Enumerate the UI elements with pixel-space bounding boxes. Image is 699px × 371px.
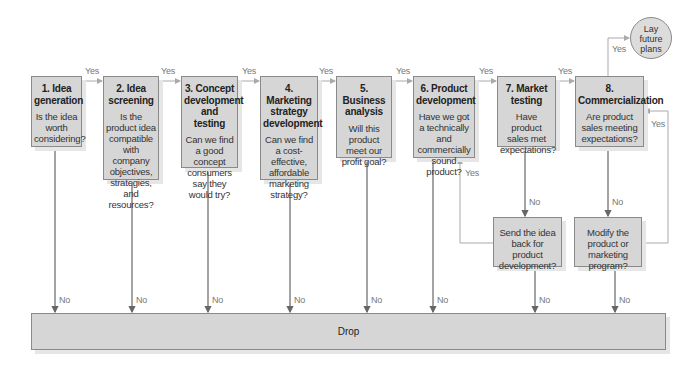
send-back-decision: Send the idea back for product developme… xyxy=(493,217,562,267)
stage-title: 1. Idea generation xyxy=(34,83,79,106)
modify-decision: Modify the product or marketing program? xyxy=(574,217,642,267)
send-back-text: Send the idea back for product developme… xyxy=(496,227,559,271)
stage-title: 4. Marketing strategy development xyxy=(263,83,315,129)
stage-title: 3. Concept development and testing xyxy=(184,83,235,129)
no-label: No xyxy=(212,295,223,305)
no-label: No xyxy=(612,197,623,207)
stage-question: Will this product meet our profit goal? xyxy=(339,123,389,167)
no-label: No xyxy=(539,295,550,305)
yes-label: Yes xyxy=(651,119,665,129)
yes-label: Yes xyxy=(465,168,479,178)
stage-marketing-strategy: 4. Marketing strategy development Can we… xyxy=(260,76,318,180)
yes-label: Yes xyxy=(319,66,333,76)
yes-label: Yes xyxy=(612,44,626,54)
no-label: No xyxy=(529,197,540,207)
stage-question: Is the product idea compatible with comp… xyxy=(106,111,156,210)
yes-label: Yes xyxy=(396,66,410,76)
stage-commercialization: 8. Commercialization Are product sales m… xyxy=(575,76,644,147)
no-label: No xyxy=(136,295,147,305)
stage-product-development: 6. Product development Have we got a tec… xyxy=(413,76,475,158)
drop-box: Drop xyxy=(31,313,666,350)
no-label: No xyxy=(619,295,630,305)
no-label: No xyxy=(294,295,305,305)
yes-label: Yes xyxy=(161,66,175,76)
stage-question: Have we got a technically and commercial… xyxy=(416,111,472,177)
stage-title: 8. Commercialization xyxy=(578,83,641,106)
yes-label: Yes xyxy=(85,66,99,76)
lay-future-plans-text: Lay future plans xyxy=(639,24,662,54)
no-label: No xyxy=(59,295,70,305)
lay-future-plans-node: Lay future plans xyxy=(630,17,672,59)
stage-business-analysis: 5. Business analysis Will this product m… xyxy=(336,76,392,158)
drop-label: Drop xyxy=(338,326,360,337)
yes-label: Yes xyxy=(558,66,572,76)
stage-question: Can we find a good concept consumers say… xyxy=(184,134,235,200)
stage-question: Is the idea worth considering? xyxy=(34,111,79,144)
no-label: No xyxy=(437,295,448,305)
yes-label: Yes xyxy=(242,66,256,76)
stage-title: 6. Product development xyxy=(416,83,472,106)
modify-text: Modify the product or marketing program? xyxy=(577,227,639,271)
stage-title: 7. Market testing xyxy=(500,83,553,106)
stage-idea-generation: 1. Idea generation Is the idea worth con… xyxy=(31,76,82,147)
stage-market-testing: 7. Market testing Have product sales met… xyxy=(497,76,556,147)
no-label: No xyxy=(371,295,382,305)
stage-question: Are product sales meeting expectations? xyxy=(578,111,641,144)
stage-title: 5. Business analysis xyxy=(339,83,389,118)
stage-question: Can we find a cost-effective, affordable… xyxy=(263,134,315,200)
stage-concept-development: 3. Concept development and testing Can w… xyxy=(181,76,238,168)
yes-label: Yes xyxy=(479,66,493,76)
stage-title: 2. Idea screening xyxy=(106,83,156,106)
stage-idea-screening: 2. Idea screening Is the product idea co… xyxy=(103,76,159,180)
stage-question: Have product sales met expectations? xyxy=(500,111,553,155)
